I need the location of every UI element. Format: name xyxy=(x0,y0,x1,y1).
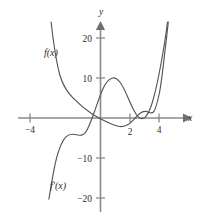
curve-label-f-prime: f′(x) xyxy=(50,180,67,192)
y-tick-label-10: 10 xyxy=(83,74,93,84)
y-tick-label-neg20: −20 xyxy=(77,194,92,204)
y-axis-arrow-icon xyxy=(96,21,105,30)
y-tick-label-neg10: −10 xyxy=(77,154,92,164)
curve-f xyxy=(51,22,168,127)
x-tick-label-4: 4 xyxy=(157,125,162,135)
x-tick-label-neg4: −4 xyxy=(25,125,35,135)
x-tick-label-2: 2 xyxy=(128,127,133,137)
polynomial-derivative-plot: −4 2 4 20 10 −10 −20 x y f(x) f′(x) xyxy=(0,0,201,220)
curve-f-prime xyxy=(49,22,168,199)
curve-label-f: f(x) xyxy=(44,47,59,59)
y-tick-label-20: 20 xyxy=(83,34,93,44)
y-axis-label: y xyxy=(98,7,104,17)
chart-figure: −4 2 4 20 10 −10 −20 x y f(x) f′(x) xyxy=(0,0,201,220)
x-axis-label: x xyxy=(187,113,193,123)
